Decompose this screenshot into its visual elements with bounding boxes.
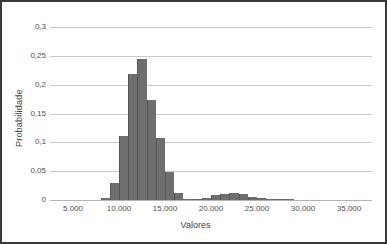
histogram-bar xyxy=(156,138,165,200)
x-axis-tick-label: 10.000 xyxy=(94,205,144,213)
x-axis-title: Valores xyxy=(2,220,387,230)
histogram-bar xyxy=(211,195,220,200)
histogram-bar xyxy=(266,199,275,200)
histogram-chart: 00,050,10,150,20,250,3 5.00010.00015.000… xyxy=(2,2,387,244)
histogram-bar xyxy=(165,172,174,200)
histogram-bar xyxy=(119,136,128,200)
x-axis-tick-label: 25.000 xyxy=(232,205,282,213)
histogram-bar xyxy=(174,193,183,200)
histogram-bar xyxy=(285,199,294,200)
histogram-bar xyxy=(229,193,238,200)
histogram-bar xyxy=(128,74,137,200)
histogram-bar xyxy=(248,197,257,200)
histogram-bar xyxy=(193,199,202,200)
histogram-bar xyxy=(220,194,229,200)
x-axis-tick-label: 30.000 xyxy=(278,205,328,213)
x-axis-tick-label: 5.000 xyxy=(48,205,98,213)
x-axis-tick-label: 15.000 xyxy=(140,205,190,213)
histogram-bar xyxy=(110,183,119,200)
histogram-bars xyxy=(2,27,387,200)
histogram-bar xyxy=(147,100,156,200)
x-axis-tick-label: 20.000 xyxy=(186,205,236,213)
histogram-bar xyxy=(101,198,110,200)
histogram-bar xyxy=(257,198,266,200)
histogram-bar xyxy=(137,59,146,200)
y-axis-title: Probabilidade xyxy=(14,89,24,147)
x-axis-tick-label: 35.000 xyxy=(324,205,374,213)
image-border: 00,050,10,150,20,250,3 5.00010.00015.000… xyxy=(0,0,387,244)
histogram-bar xyxy=(239,194,248,200)
histogram-bar xyxy=(275,199,284,200)
histogram-bar xyxy=(183,199,192,200)
x-axis-line xyxy=(50,200,372,201)
histogram-bar xyxy=(202,198,211,200)
